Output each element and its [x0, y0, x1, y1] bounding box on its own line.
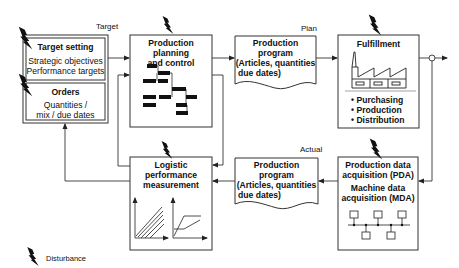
target-setting-title: Target setting [26, 42, 105, 52]
target-setting-line: Strategic objectives [26, 56, 105, 66]
pda-text: Production data acquisition (PDA) Machin… [338, 160, 418, 203]
lightning-bolt-icon [369, 15, 382, 36]
actual-program-line: program [235, 170, 318, 180]
actual-program-line: (Articles, quantities [235, 180, 318, 190]
orders-line: Quantities / [26, 100, 105, 110]
logistic-title-line: measurement [130, 180, 212, 190]
planning-title-line: Production planning [130, 38, 212, 58]
actual-program-line: Production [235, 160, 318, 170]
lightning-bolt-icon [163, 16, 174, 34]
logistic-title-line: Logistic [130, 160, 212, 170]
lightning-bolt-icon [370, 139, 383, 160]
planning-title-line: and control [130, 58, 212, 68]
fulfillment-item: • Production [351, 105, 419, 115]
orders-line: mix / due dates [26, 110, 105, 120]
lightning-bolt-icon [162, 141, 173, 159]
planning-title: Production planning and control [130, 38, 212, 68]
logistic-title-line: performance [130, 170, 212, 180]
lightning-bolt-icon [27, 247, 38, 266]
fulfillment-item: • Distribution [351, 115, 419, 125]
plan-program-line: Production [235, 38, 316, 48]
pda-line: Production data [338, 160, 418, 170]
target-label: Target [96, 22, 118, 31]
plan-program-line: (Articles, quantities [235, 58, 316, 68]
actual-program-line: due dates) [235, 190, 318, 200]
orders: Orders Quantities / mix / due dates [26, 87, 105, 120]
mda-line: Machine data [338, 183, 418, 193]
actual-program-text: Production program (Articles, quantities… [235, 160, 318, 200]
target-setting-line: Performance targets [26, 66, 105, 76]
junction-node [429, 55, 435, 61]
plan-program-line: due dates) [235, 68, 316, 78]
plan-program-line: program [235, 48, 316, 58]
orders-title: Orders [26, 87, 105, 97]
fulfillment-title: Fulfillment [338, 39, 419, 49]
plan-program-text: Production program (Articles, quantities… [235, 38, 316, 78]
fulfillment-list: • Purchasing • Production • Distribution [351, 95, 419, 125]
target-setting: Target setting Strategic objectives Perf… [26, 42, 105, 76]
plan-label: Plan [301, 24, 317, 33]
disturbance-legend-label: Disturbance [46, 254, 86, 263]
actual-label: Actual [300, 145, 322, 154]
pda-line: acquisition (PDA) [338, 170, 418, 180]
fulfillment-item: • Purchasing [351, 95, 419, 105]
mda-line: acquisition (MDA) [338, 193, 418, 203]
logistic-title: Logistic performance measurement [130, 160, 212, 190]
